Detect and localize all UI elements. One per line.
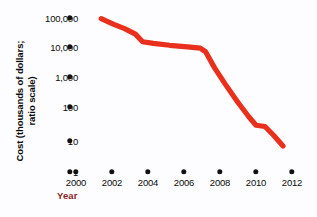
series-line-cost-per-genome xyxy=(101,19,283,146)
x-tick-dot-2004 xyxy=(145,169,150,174)
x-tick-dot-2006 xyxy=(181,169,186,174)
x-tick-dot-2012 xyxy=(289,169,294,174)
x-tick-dot-2010 xyxy=(253,169,258,174)
x-tick-label-2012: 2012 xyxy=(270,177,314,188)
x-tick-dot-2008 xyxy=(217,169,222,174)
chart-container: Cost (thousands of dollars; ratio scale)… xyxy=(0,0,317,217)
x-tick-dot-2002 xyxy=(109,169,114,174)
x-axis-title: Year xyxy=(57,190,77,201)
